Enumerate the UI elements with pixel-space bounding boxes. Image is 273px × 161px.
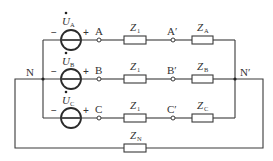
label-a: A: [95, 25, 103, 37]
label-a-prime: A′: [167, 25, 177, 37]
impedance-z1-c: Z 1: [124, 99, 146, 122]
label-c-prime: C′: [167, 103, 177, 115]
svg-text:1: 1: [137, 66, 140, 73]
svg-text:Z: Z: [130, 21, 137, 33]
node-n: [41, 77, 44, 80]
impedance-zn: Z N: [124, 129, 146, 152]
label-b: B: [95, 64, 102, 76]
label-c: C: [95, 103, 102, 115]
label-n: N: [26, 66, 34, 78]
terminal-c-prime: [171, 116, 175, 120]
terminal-b: [97, 77, 101, 81]
circuit-diagram: U A − + U B − + U C − + A B C A′ B′ C′ N…: [0, 0, 273, 161]
label-n-prime: N′: [240, 66, 250, 78]
svg-text:Z: Z: [197, 99, 204, 111]
svg-text:1: 1: [137, 105, 140, 112]
svg-text:−: −: [51, 105, 57, 116]
svg-text:Z: Z: [197, 21, 204, 33]
voltage-source-c: U C − +: [51, 91, 89, 128]
svg-text:+: +: [83, 27, 89, 38]
svg-text:Z: Z: [130, 99, 137, 111]
svg-text:B: B: [70, 61, 75, 68]
svg-text:C: C: [204, 105, 208, 112]
label-b-prime: B′: [167, 64, 177, 76]
svg-text:Z: Z: [197, 60, 204, 72]
node-n-prime: [233, 77, 236, 80]
impedance-zc: Z C: [192, 99, 213, 122]
svg-text:1: 1: [137, 27, 140, 34]
impedance-za: Z A: [192, 21, 213, 44]
svg-text:−: −: [51, 66, 57, 77]
svg-text:C: C: [70, 100, 74, 107]
svg-text:Z: Z: [130, 60, 137, 72]
svg-text:−: −: [51, 27, 57, 38]
voltage-source-a: U A − +: [51, 12, 89, 50]
svg-text:B: B: [204, 66, 209, 73]
svg-text:+: +: [83, 66, 89, 77]
svg-text:N: N: [137, 135, 142, 142]
voltage-source-b: U B − +: [51, 52, 89, 89]
svg-text:+: +: [83, 105, 89, 116]
terminal-a: [97, 38, 101, 42]
svg-text:Z: Z: [130, 129, 137, 141]
terminal-b-prime: [171, 77, 175, 81]
terminal-c: [97, 116, 101, 120]
impedance-z1-b: Z 1: [124, 60, 146, 83]
impedance-z1-a: Z 1: [124, 21, 146, 44]
impedance-zb: Z B: [192, 60, 213, 83]
terminal-a-prime: [171, 38, 175, 42]
svg-text:A: A: [70, 21, 75, 28]
svg-text:A: A: [204, 27, 209, 34]
